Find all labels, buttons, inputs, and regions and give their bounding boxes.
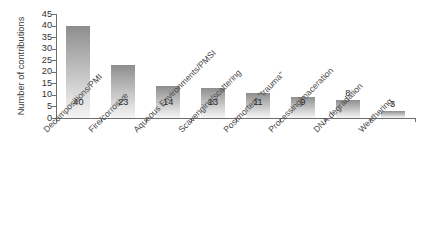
- y-axis-title: Number of contributions: [16, 4, 26, 128]
- y-axis-line: [56, 14, 57, 118]
- y-tick: [52, 60, 56, 61]
- y-tick-label: 30: [34, 44, 52, 53]
- y-tick: [52, 26, 56, 27]
- y-tick-label: 25: [34, 56, 52, 65]
- y-tick: [52, 95, 56, 96]
- y-tick-label: 20: [34, 67, 52, 76]
- y-tick-label: 45: [34, 10, 52, 19]
- y-tick-label: 40: [34, 21, 52, 30]
- y-tick: [52, 106, 56, 107]
- y-tick-label: 15: [34, 79, 52, 88]
- y-tick: [52, 83, 56, 84]
- bar-chart-figure: Number of contributions 0510152025303540…: [0, 0, 424, 238]
- y-tick: [52, 49, 56, 50]
- y-tick: [52, 14, 56, 15]
- y-tick: [52, 72, 56, 73]
- y-tick-label: 35: [34, 33, 52, 42]
- x-tick: [415, 118, 416, 122]
- y-tick: [52, 37, 56, 38]
- y-tick-label: 5: [34, 102, 52, 111]
- y-tick-label: 10: [34, 90, 52, 99]
